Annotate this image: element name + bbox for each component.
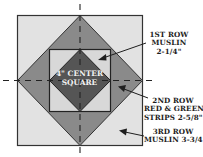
label-second-row: 2ND ROW RED & GREEN STRIPS 2-5/8" [144, 97, 202, 122]
center-square-label: 4" CENTER SQUARE [49, 69, 110, 87]
center-label-line-2: SQUARE [49, 78, 110, 87]
label-first-row-line-3: 2-1/4" [146, 48, 192, 56]
label-third-row: 3RD ROW MUSLIN 3-3/4" [144, 128, 202, 145]
label-second-row-line-3: STRIPS 2-5/8" [144, 114, 202, 122]
center-label-line-1: 4" CENTER [49, 69, 110, 78]
label-first-row: 1ST ROW MUSLIN 2-1/4" [146, 31, 192, 56]
label-third-row-line-2: MUSLIN 3-3/4" [144, 136, 202, 144]
